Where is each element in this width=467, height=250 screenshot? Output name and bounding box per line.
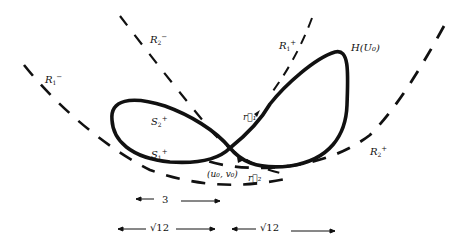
label-r2-plus: R2+ xyxy=(370,147,387,157)
label-r2-minus: R2− xyxy=(150,35,167,45)
label-r1-plus: R1+ xyxy=(279,41,296,51)
label-r1-minus: R1− xyxy=(45,75,62,85)
dimension-label-sqrt12-right: √12 xyxy=(260,223,279,233)
label-saddle-point: (u₀, v₀) xyxy=(207,170,238,179)
label-s2-plus: S2+ xyxy=(151,117,168,127)
dimension-3 xyxy=(136,197,220,203)
curve-h-u0 xyxy=(112,52,348,167)
label-s1-plus: S1+ xyxy=(151,150,168,160)
dimension-sqrt12-right xyxy=(232,227,335,233)
curves-svg xyxy=(0,0,467,250)
curve-r2-plus xyxy=(205,26,444,168)
label-r1-vector: r⃗₁ xyxy=(243,113,256,122)
label-h-u0: H(U₀) xyxy=(351,43,380,53)
dimension-label-3: 3 xyxy=(162,195,168,205)
dimension-label-sqrt12-left: √12 xyxy=(150,223,169,233)
label-r2-vector: r⃗₂ xyxy=(248,174,261,183)
curve-r2-minus xyxy=(120,16,290,175)
diagram-canvas: R1− R2− R1+ H(U₀) R2+ S2+ S1+ r⃗₁ r⃗₂ (u… xyxy=(0,0,467,250)
